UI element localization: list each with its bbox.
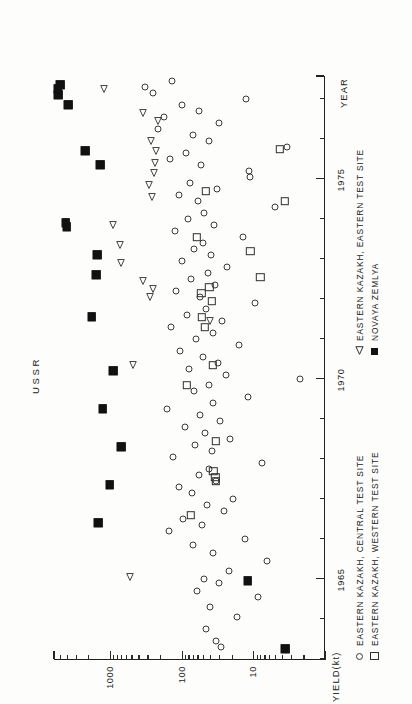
data-point-open-triangle — [148, 117, 156, 125]
data-point-open-circle — [200, 354, 207, 361]
data-point-open-square — [211, 477, 219, 485]
data-point-open-circle — [190, 132, 197, 139]
data-point-filled-square — [62, 219, 71, 228]
data-point-open-circle — [188, 490, 195, 497]
scatter-figure: USSR YEAR YIELD(kt) EASTERN KAZAKH, CENT… — [0, 0, 412, 704]
y-axis-tick — [121, 655, 122, 660]
data-point-open-circle — [210, 400, 217, 407]
data-point-filled-square — [109, 367, 118, 376]
x-axis-tick — [316, 178, 325, 179]
data-point-open-circle — [202, 430, 209, 437]
data-point-filled-square — [54, 85, 63, 94]
data-point-open-square — [256, 273, 264, 281]
rotated-figure-wrapper: USSR YEAR YIELD(kt) EASTERN KAZAKH, CENT… — [0, 0, 412, 704]
data-point-open-triangle — [143, 285, 151, 293]
data-point-open-circle — [163, 406, 170, 413]
data-point-open-circle — [208, 448, 215, 455]
figure-page: USSR YEAR YIELD(kt) EASTERN KAZAKH, CENT… — [0, 0, 412, 704]
data-point-open-circle — [251, 300, 258, 307]
open-square-icon — [370, 646, 378, 660]
data-point-open-circle — [255, 594, 262, 601]
data-point-open-circle — [206, 138, 213, 145]
data-point-open-circle — [245, 168, 252, 175]
data-point-open-circle — [155, 126, 162, 133]
x-axis-tick — [320, 218, 325, 219]
y-axis-tick — [188, 655, 189, 660]
data-point-open-circle — [259, 460, 266, 467]
data-point-open-circle — [166, 156, 173, 163]
x-axis-tick — [320, 418, 325, 419]
x-axis-tick — [316, 578, 325, 579]
data-point-open-circle — [193, 336, 200, 343]
y-axis-tick — [232, 655, 233, 660]
data-point-open-circle — [224, 264, 231, 271]
y-axis-tick-label: 1000 — [105, 666, 115, 694]
data-point-open-triangle — [200, 317, 208, 325]
y-axis-tick-label: 10 — [248, 666, 258, 694]
data-point-open-circle — [201, 576, 208, 583]
data-point-filled-square — [81, 147, 90, 156]
data-point-open-triangle — [103, 221, 111, 229]
open-circle-icon — [356, 646, 363, 660]
data-point-open-circle — [225, 568, 232, 575]
data-point-open-circle — [204, 270, 211, 277]
data-point-open-circle — [218, 644, 225, 651]
x-axis-tick — [320, 338, 325, 339]
x-axis-tick-label: 1975 — [336, 169, 346, 192]
data-point-open-circle — [191, 246, 198, 253]
data-point-filled-square — [243, 577, 252, 586]
data-point-open-circle — [297, 376, 304, 383]
data-point-open-circle — [187, 180, 194, 187]
y-axis-tick — [60, 655, 61, 660]
data-point-filled-square — [92, 271, 101, 280]
y-axis-tick — [282, 655, 283, 660]
legend-item-western[interactable]: EASTERN KAZAKH, WESTERN TEST SITE — [367, 452, 382, 660]
y-axis-tick — [126, 655, 127, 660]
x-axis-tick — [320, 618, 325, 619]
legend-item-central[interactable]: EASTERN KAZAKH, CENTRAL TEST SITE — [352, 452, 367, 660]
y-axis-tick — [131, 655, 132, 660]
data-point-open-square — [205, 283, 213, 291]
data-point-open-circle — [244, 394, 251, 401]
data-point-open-circle — [242, 536, 249, 543]
data-point-open-circle — [150, 90, 157, 97]
data-point-open-triangle — [123, 361, 131, 369]
data-point-open-circle — [204, 502, 211, 509]
x-axis-tick-label: 1965 — [336, 569, 346, 592]
legend-item-novaya[interactable]: NOVAYA ZEMLYA — [367, 149, 382, 355]
x-axis-tick — [316, 378, 325, 379]
data-point-open-triangle — [139, 181, 147, 189]
data-point-open-circle — [178, 102, 185, 109]
data-point-open-triangle — [141, 137, 149, 145]
y-axis-tick — [291, 655, 292, 660]
open-triangle-icon — [355, 341, 364, 355]
y-axis-tick — [76, 655, 77, 660]
data-point-open-square — [212, 437, 220, 445]
data-point-open-circle — [203, 306, 210, 313]
data-point-open-triangle — [133, 277, 141, 285]
y-axis-tick-label: 100 — [177, 666, 187, 694]
legend-column-left: EASTERN KAZAKH, CENTRAL TEST SITE EASTER… — [352, 452, 382, 660]
data-point-open-square — [208, 361, 216, 369]
data-point-open-square — [209, 467, 217, 475]
plot-title: USSR — [30, 357, 41, 394]
data-point-open-circle — [177, 348, 184, 355]
data-point-open-circle — [182, 150, 189, 157]
data-point-open-circle — [170, 454, 177, 461]
y-axis-tick — [182, 651, 183, 660]
x-axis-tick — [320, 538, 325, 539]
y-axis-tick — [197, 655, 198, 660]
data-point-filled-square — [99, 405, 108, 414]
data-point-open-triangle — [94, 85, 102, 93]
y-axis-tick — [325, 651, 326, 660]
x-axis-tick — [320, 298, 325, 299]
data-point-open-square — [193, 233, 201, 241]
y-axis-tick — [253, 651, 254, 660]
legend-item-eastern[interactable]: EASTERN KAZAKH, EASTERN TEST SITE — [352, 149, 367, 355]
data-point-open-circle — [207, 252, 214, 259]
data-point-open-square — [275, 145, 283, 153]
data-point-open-circle — [219, 318, 226, 325]
data-point-open-circle — [189, 542, 196, 549]
legend-label: NOVAYA ZEMLYA — [370, 263, 380, 341]
data-point-open-circle — [263, 558, 270, 565]
